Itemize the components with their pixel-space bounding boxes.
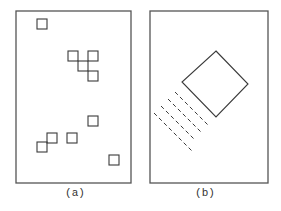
square-6 [47, 133, 57, 143]
square-2 [88, 51, 98, 61]
caption-b: (b) [195, 187, 215, 199]
dashed-line-1 [168, 99, 202, 133]
dashed-line-2 [161, 106, 195, 140]
panel-a-frame [16, 11, 131, 183]
square-5 [88, 116, 98, 126]
square-3 [78, 61, 88, 71]
square-1 [68, 51, 78, 61]
square-0 [37, 19, 47, 29]
panel-b [150, 11, 268, 183]
square-4 [88, 71, 98, 81]
square-8 [37, 142, 47, 152]
panel-a [16, 11, 131, 183]
square-9 [109, 155, 119, 165]
square-7 [67, 133, 77, 143]
panel-b-frame [150, 11, 268, 183]
dashed-line-0 [175, 92, 209, 126]
rotated-square [182, 51, 248, 117]
figure-canvas [0, 0, 281, 211]
caption-a: (a) [65, 187, 85, 199]
